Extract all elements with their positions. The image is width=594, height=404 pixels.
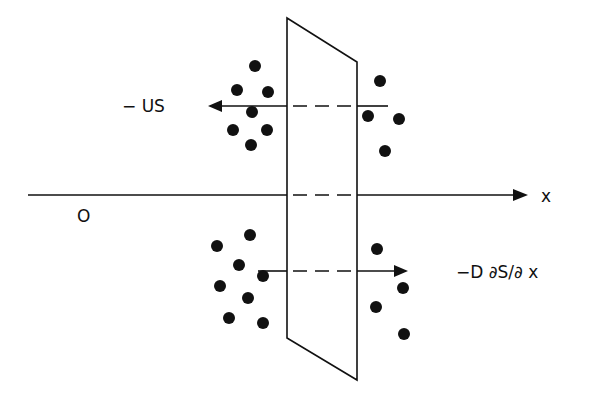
control-plane <box>287 18 357 380</box>
diagram-canvas: x O − US −D ∂S/∂ x <box>0 0 594 404</box>
right-arrowhead-icon <box>394 265 408 277</box>
flux-diagram: x O − US −D ∂S/∂ x <box>0 0 594 404</box>
left-arrowhead-icon <box>208 100 222 112</box>
particles-lower-right <box>370 243 410 340</box>
origin-label: O <box>77 206 90 226</box>
particles-upper-right <box>362 75 405 157</box>
diffusion-label: −D ∂S/∂ x <box>456 262 538 282</box>
x-axis-arrowhead-icon <box>513 189 528 201</box>
x-axis-label: x <box>541 186 551 206</box>
advection-label: − US <box>122 96 165 116</box>
particles-lower-left <box>211 229 269 329</box>
